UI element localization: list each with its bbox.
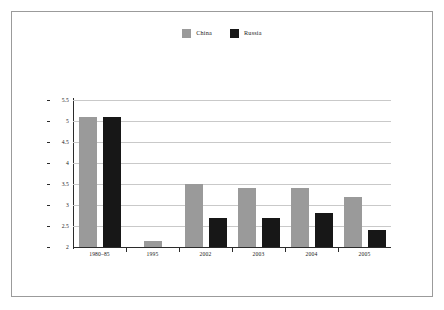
bar-group (73, 100, 126, 247)
bar-groups (73, 100, 391, 247)
y-axis-tick-label: 5 (66, 118, 69, 124)
legend-entry-china: China (182, 29, 212, 38)
y-axis-tick-label: 5.5 (62, 97, 69, 103)
bar-group (338, 100, 391, 247)
bar-china (344, 197, 362, 247)
y-axis-tick-mark (47, 205, 50, 206)
y-axis-tick-mark (47, 142, 50, 143)
y-axis-tick-mark (47, 163, 50, 164)
x-axis-tick-label: 1995 (147, 251, 159, 257)
bar-russia (315, 213, 333, 247)
plot-area (73, 100, 391, 247)
y-axis-tick-label: 2 (66, 244, 69, 250)
bar-russia (209, 218, 227, 247)
x-axis-tick-label: 2005 (359, 251, 371, 257)
legend-label: China (196, 30, 212, 36)
x-axis-tick-label: 1980–85 (89, 251, 110, 257)
bar-china (185, 184, 203, 247)
bar-china (291, 188, 309, 247)
bar-russia (262, 218, 280, 247)
x-axis-tick-label: 2002 (200, 251, 212, 257)
y-axis-tick-mark (47, 184, 50, 185)
x-axis-tick-labels: 1980–8519952002200320042005 (73, 251, 391, 265)
legend-label: Russia (244, 30, 262, 36)
legend-swatch-china (182, 29, 191, 38)
y-axis-tick-mark (47, 247, 50, 248)
legend-swatch-russia (230, 29, 239, 38)
y-axis-tick-mark (47, 226, 50, 227)
y-axis-tick-labels: 22.533.544.555.5 (50, 100, 69, 247)
x-axis-tick-label: 2003 (253, 251, 265, 257)
y-axis-tick-label: 3 (66, 202, 69, 208)
y-axis-tick-label: 3.5 (62, 181, 69, 187)
y-axis-tick-mark (47, 121, 50, 122)
chart-figure: ChinaRussia 22.533.544.555.5 1980–851995… (11, 11, 433, 297)
chart-legend: ChinaRussia (12, 29, 432, 38)
x-axis-tick-label: 2004 (306, 251, 318, 257)
bar-china (79, 117, 97, 247)
y-axis-tick-mark (47, 100, 50, 101)
bar-group (232, 100, 285, 247)
bar-russia (103, 117, 121, 247)
y-axis-tick-label: 4.5 (62, 139, 69, 145)
bar-group (179, 100, 232, 247)
y-axis-tick-label: 2.5 (62, 223, 69, 229)
bar-russia (368, 230, 386, 247)
y-axis-tick-label: 4 (66, 160, 69, 166)
bar-group (285, 100, 338, 247)
bar-group (126, 100, 179, 247)
bar-china (238, 188, 256, 247)
legend-entry-russia: Russia (230, 29, 262, 38)
